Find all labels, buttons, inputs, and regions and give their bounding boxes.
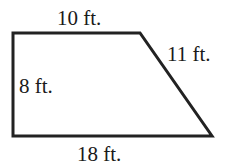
slanted-side-label: 11 ft. [167,42,211,66]
left-side-label: 8 ft. [19,74,53,98]
bottom-side-label: 18 ft. [77,142,121,164]
top-side-label: 10 ft. [57,6,101,30]
trapezoid-diagram: 10 ft. 11 ft. 8 ft. 18 ft. [0,0,227,164]
